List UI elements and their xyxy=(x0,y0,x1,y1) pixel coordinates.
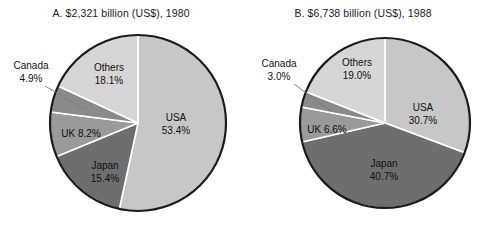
pie-chart-figure: A. $2,321 billion (US$), 1980 USA 53.4% … xyxy=(0,0,484,243)
chart-panel-a: A. $2,321 billion (US$), 1980 USA 53.4% … xyxy=(0,0,242,243)
chart-a-pie xyxy=(0,0,242,243)
chart-b-canada-value: 3.0% xyxy=(248,71,310,84)
chart-a-callout-canada: Canada 4.9% xyxy=(0,60,62,85)
chart-panel-b: B. $6,738 billion (US$), 1988 USA 30.7% … xyxy=(242,0,484,243)
chart-b-callout-canada: Canada 3.0% xyxy=(248,58,310,83)
chart-a-canada-value: 4.9% xyxy=(0,73,62,86)
chart-b-pie xyxy=(242,0,484,243)
chart-b-canada-name: Canada xyxy=(248,58,310,71)
chart-a-canada-name: Canada xyxy=(0,60,62,73)
